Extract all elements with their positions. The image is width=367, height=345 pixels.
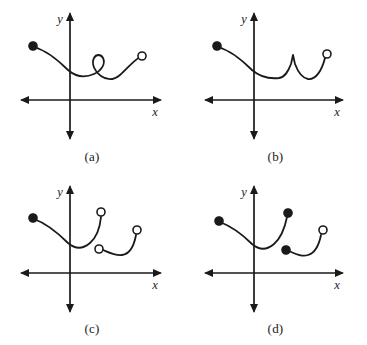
y-axis-arrow-down-icon <box>250 304 258 313</box>
panel-d-graph: y x <box>184 173 367 345</box>
panel-d-caption: (d) <box>184 321 367 337</box>
panel-c-graph: y x <box>0 173 184 345</box>
y-axis-label: y <box>55 185 63 199</box>
panel-d: y x (d) <box>184 173 367 345</box>
y-axis-arrow-up-icon <box>250 185 258 194</box>
x-axis-label: x <box>151 105 158 119</box>
panel-b-caption: (b) <box>184 149 367 165</box>
curve-with-cusp <box>218 47 325 79</box>
y-axis-arrow-down-icon <box>250 131 258 140</box>
panel-b: y x (b) <box>184 0 367 173</box>
x-axis-arrow-left-icon <box>204 96 213 104</box>
filled-endpoint-left <box>215 217 223 225</box>
filled-endpoint-arc2-left <box>282 246 290 254</box>
x-axis-arrow-right-icon <box>335 269 344 277</box>
panel-c-caption: (c) <box>0 321 184 337</box>
y-axis-label: y <box>55 12 63 26</box>
open-endpoint-arc1-right <box>97 208 105 216</box>
panel-b-graph: y x <box>184 0 367 173</box>
y-axis-label: y <box>239 12 247 26</box>
y-axis-arrow-up-icon <box>66 185 74 194</box>
filled-endpoint-left <box>29 42 37 50</box>
figure-container: y x (a) y x (b) <box>0 0 367 345</box>
x-axis-label: x <box>333 105 340 119</box>
y-axis-arrow-down-icon <box>66 131 74 140</box>
y-axis-arrow-up-icon <box>66 12 74 21</box>
x-axis-arrow-right-icon <box>153 96 162 104</box>
curve-arc-1 <box>34 217 101 248</box>
curve-arc-2 <box>103 235 136 255</box>
x-axis-label: x <box>333 278 340 292</box>
y-axis-label: y <box>239 185 247 199</box>
panel-c: y x (c) <box>0 173 184 345</box>
filled-endpoint-left <box>29 214 37 222</box>
panel-a: y x (a) <box>0 0 184 173</box>
open-endpoint-arc2-right <box>133 226 141 234</box>
open-endpoint-right <box>138 52 146 60</box>
open-endpoint-arc2-right <box>319 226 327 234</box>
curve-with-loop <box>34 47 140 79</box>
x-axis-arrow-left-icon <box>20 269 29 277</box>
panel-a-caption: (a) <box>0 149 184 165</box>
x-axis-arrow-right-icon <box>335 96 344 104</box>
x-axis-label: x <box>151 278 158 292</box>
y-axis-arrow-up-icon <box>250 12 258 21</box>
x-axis-arrow-right-icon <box>153 269 162 277</box>
open-endpoint-arc2-left <box>95 245 103 253</box>
filled-endpoint-left <box>213 42 221 50</box>
x-axis-arrow-left-icon <box>20 96 29 104</box>
open-endpoint-right <box>323 50 331 58</box>
filled-endpoint-arc1-right <box>284 209 292 217</box>
curve-arc-2 <box>289 235 321 256</box>
panel-a-graph: y x <box>0 0 184 173</box>
y-axis-arrow-down-icon <box>66 304 74 313</box>
x-axis-arrow-left-icon <box>204 269 213 277</box>
